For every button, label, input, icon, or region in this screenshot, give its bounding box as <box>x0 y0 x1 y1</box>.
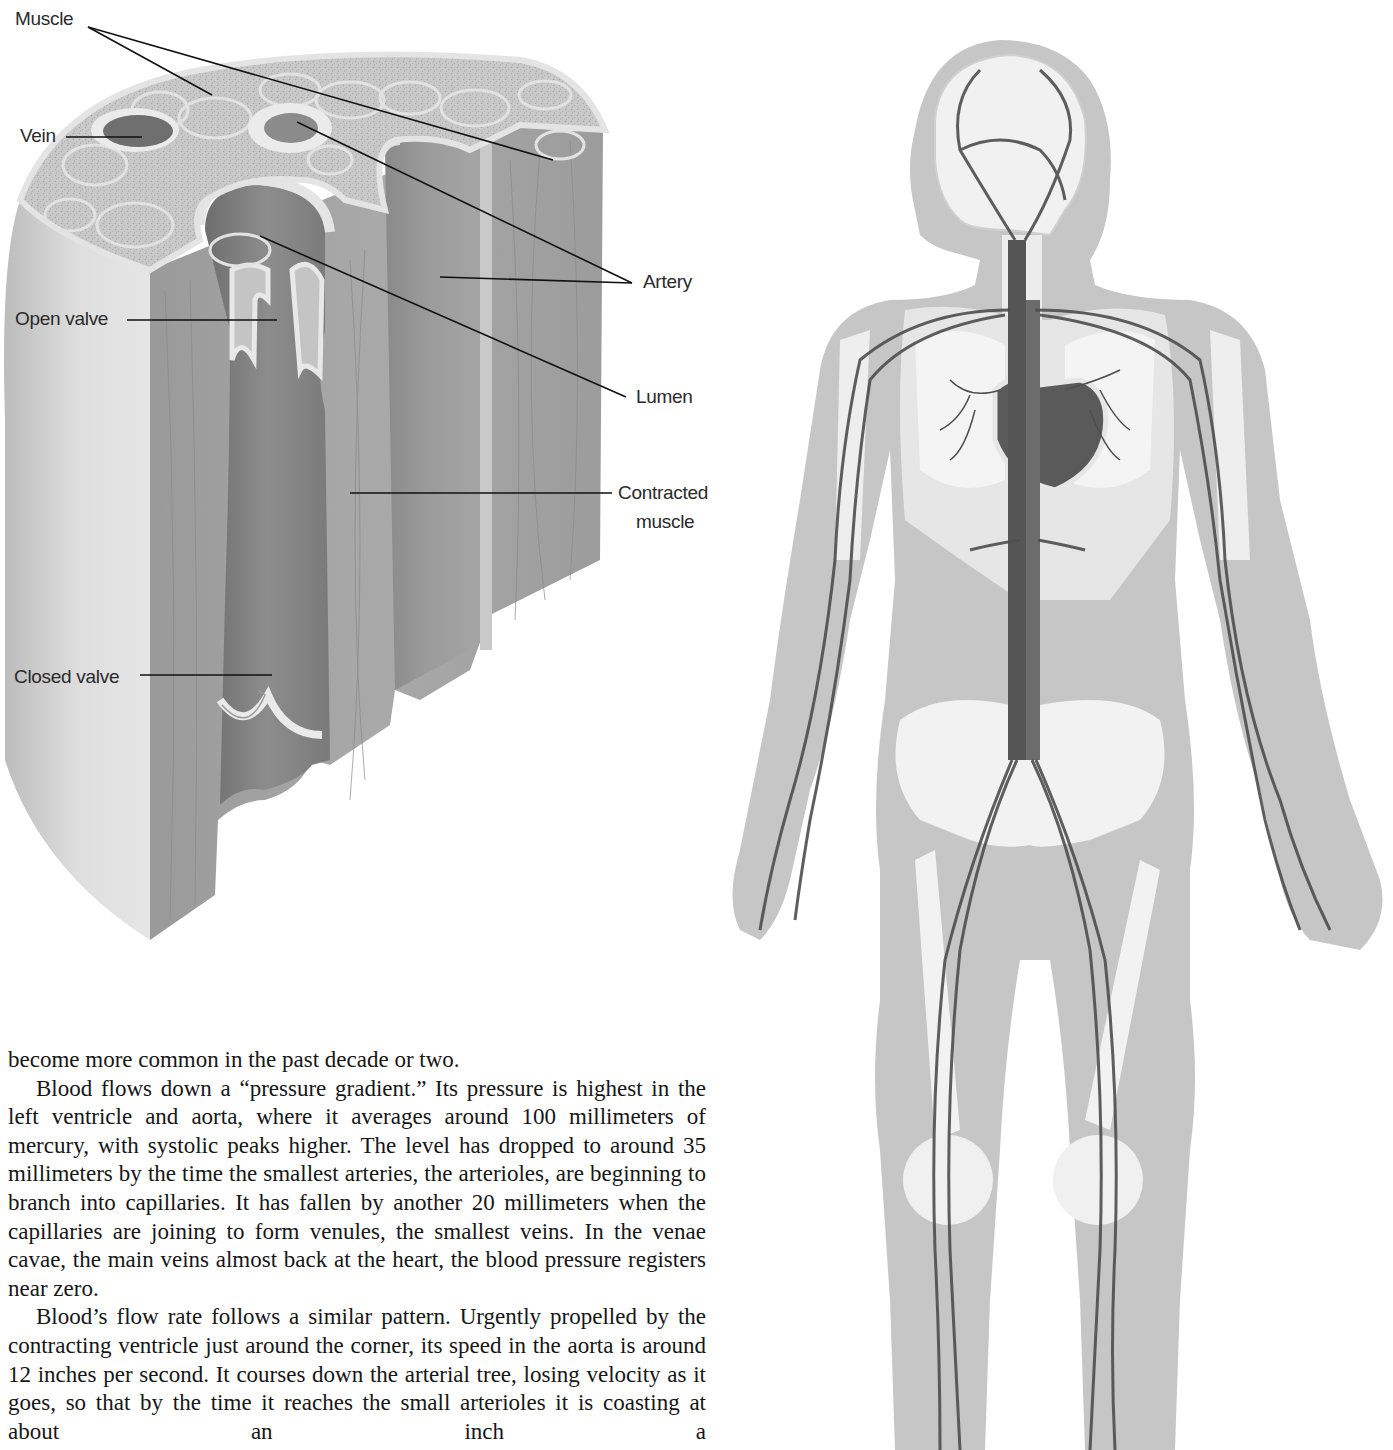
human-body-illustration <box>720 0 1393 1450</box>
vein-artery-cross-section-diagram: Muscle Vein Open valve Closed valve Arte… <box>0 0 730 960</box>
label-open-valve: Open valve <box>15 309 108 330</box>
circulatory-system-figure <box>720 0 1393 1450</box>
label-contracted-muscle-line1: Contracted <box>618 483 708 504</box>
label-contracted-muscle-line2: muscle <box>636 512 694 533</box>
cross-section-illustration <box>0 0 730 960</box>
label-closed-valve: Closed valve <box>14 667 119 688</box>
paragraph-3: Blood’s flow rate follows a similar patt… <box>8 1303 706 1446</box>
paragraph-1: become more common in the past decade or… <box>8 1046 706 1075</box>
article-body: become more common in the past decade or… <box>8 1046 706 1446</box>
label-artery: Artery <box>643 272 692 293</box>
label-vein: Vein <box>20 126 56 147</box>
paragraph-2: Blood flows down a “pressure gradient.” … <box>8 1075 706 1304</box>
label-lumen: Lumen <box>636 387 693 408</box>
label-muscle: Muscle <box>15 9 73 30</box>
